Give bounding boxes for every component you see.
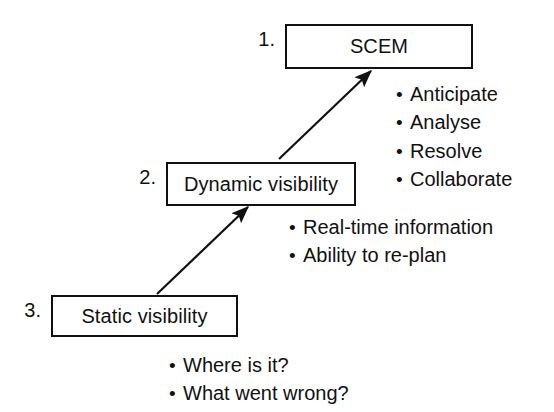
node-label-scem: SCEM xyxy=(350,35,408,58)
bullet-item-label: Real-time information xyxy=(303,213,493,241)
bullet-dot-icon: • xyxy=(169,356,183,375)
node-box-scem[interactable]: SCEM xyxy=(285,24,473,69)
bullet-item: •What went wrong? xyxy=(169,379,349,407)
bullet-dot-icon: • xyxy=(169,384,183,403)
bullet-item-label: Where is it? xyxy=(183,351,289,379)
node-box-dynamic-visibility[interactable]: Dynamic visibility xyxy=(166,162,356,206)
step-number-3: 3. xyxy=(6,299,41,322)
bullet-item-label: What went wrong? xyxy=(183,379,349,407)
step-number-1: 1. xyxy=(240,28,275,51)
bullet-item-label: Resolve xyxy=(410,137,482,165)
bullet-item: •Analyse xyxy=(396,108,512,136)
bullet-dot-icon: • xyxy=(396,170,410,189)
bullet-item: •Anticipate xyxy=(396,80,512,108)
arrow-static-to-dynamic xyxy=(157,207,248,294)
bullet-item: •Ability to re-plan xyxy=(289,241,493,269)
bullet-item: •Where is it? xyxy=(169,351,349,379)
bullet-dot-icon: • xyxy=(289,218,303,237)
node-label-dynamic-visibility: Dynamic visibility xyxy=(184,173,338,196)
node-label-static-visibility: Static visibility xyxy=(81,305,207,328)
bullet-dot-icon: • xyxy=(396,113,410,132)
step-number-2: 2. xyxy=(122,166,156,189)
bullet-dot-icon: • xyxy=(396,142,410,161)
arrow-dynamic-to-scem xyxy=(279,71,371,159)
bullet-list-scem-capabilities: •Anticipate•Analyse•Resolve•Collaborate xyxy=(396,80,512,194)
bullet-item-label: Analyse xyxy=(410,108,481,136)
bullet-item: •Resolve xyxy=(396,137,512,165)
bullet-list-static-visibility-questions: •Where is it?•What went wrong? xyxy=(169,351,349,408)
bullet-dot-icon: • xyxy=(396,85,410,104)
diagram-canvas: 1. 2. 3. SCEM Dynamic visibility Static … xyxy=(0,0,554,412)
bullet-item-label: Anticipate xyxy=(410,80,498,108)
bullet-list-dynamic-visibility-attributes: •Real-time information•Ability to re-pla… xyxy=(289,213,493,270)
bullet-item: •Collaborate xyxy=(396,165,512,193)
bullet-item-label: Ability to re-plan xyxy=(303,241,446,269)
bullet-dot-icon: • xyxy=(289,246,303,265)
bullet-item-label: Collaborate xyxy=(410,165,512,193)
node-box-static-visibility[interactable]: Static visibility xyxy=(51,295,238,337)
bullet-item: •Real-time information xyxy=(289,213,493,241)
